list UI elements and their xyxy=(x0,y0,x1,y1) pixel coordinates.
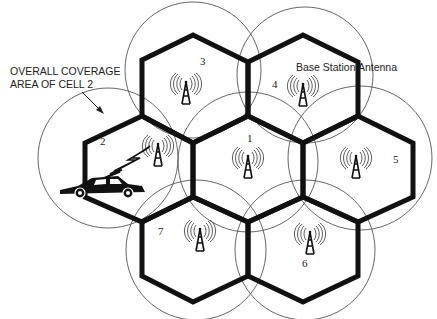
cell-label-3: 3 xyxy=(200,55,206,67)
radio-tower-icon xyxy=(184,220,215,251)
cell-label-4: 4 xyxy=(272,78,278,90)
arrow-icon xyxy=(82,92,104,114)
coverage-label-line1: OVERALL COVERAGE xyxy=(10,65,120,77)
radio-tower-icon xyxy=(294,223,325,254)
radio-tower-icon xyxy=(232,147,263,178)
cell-label-2: 2 xyxy=(100,135,106,147)
coverage-circle-6 xyxy=(235,180,375,319)
radio-tower-icon xyxy=(287,75,318,106)
cell-label-5: 5 xyxy=(393,153,399,165)
cell-label-6: 6 xyxy=(302,257,308,269)
cell-label-1: 1 xyxy=(247,132,253,144)
antennas xyxy=(142,73,371,254)
radio-tower-icon xyxy=(340,147,371,178)
car-icon xyxy=(60,176,145,198)
cellular-diagram: 3 4 2 1 5 7 6 OVERALL COVERAGE AREA OF C… xyxy=(0,0,437,319)
coverage-circles xyxy=(38,2,432,319)
hexagon-cell-7 xyxy=(142,197,248,302)
cell-hexagons xyxy=(85,35,413,302)
cell-label-7: 7 xyxy=(158,225,164,237)
radio-tower-icon xyxy=(170,73,201,104)
antenna-label: Base Station Antenna xyxy=(296,61,397,73)
radio-tower-icon xyxy=(142,135,173,166)
coverage-label-line2: AREA OF CELL 2 xyxy=(10,78,93,90)
hexagon-cell-6 xyxy=(248,197,358,302)
